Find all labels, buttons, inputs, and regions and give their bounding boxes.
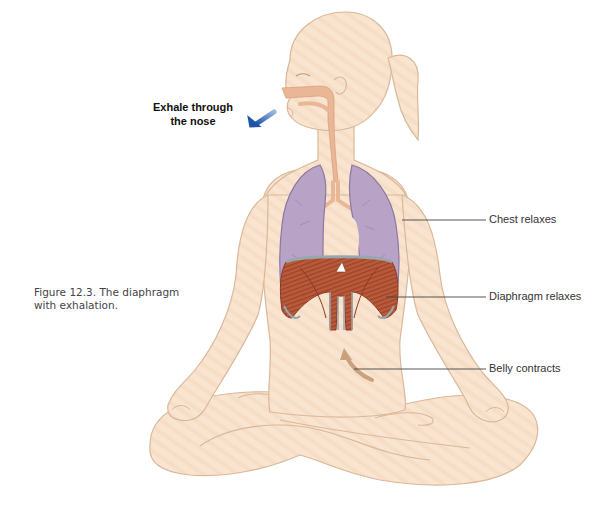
head bbox=[286, 12, 419, 140]
figure-illustration bbox=[0, 0, 608, 520]
caption-line-2: with exhalation. bbox=[34, 299, 214, 312]
exhale-label-line1: Exhale through bbox=[130, 100, 256, 114]
figure-caption: Figure 12.3. The diaphragm with exhalati… bbox=[34, 286, 214, 312]
diaphragm-exhalation-figure: Exhale through the nose Chest relaxes Di… bbox=[0, 0, 608, 520]
caption-line-1: Figure 12.3. The diaphragm bbox=[34, 286, 214, 299]
chest-label: Chest relaxes bbox=[489, 213, 556, 226]
belly-label: Belly contracts bbox=[489, 362, 561, 375]
diaphragm-label: Diaphragm relaxes bbox=[489, 290, 581, 303]
exhale-label-line2: the nose bbox=[130, 114, 256, 128]
right-arm bbox=[402, 195, 508, 422]
exhale-annotation: Exhale through the nose bbox=[130, 100, 256, 128]
